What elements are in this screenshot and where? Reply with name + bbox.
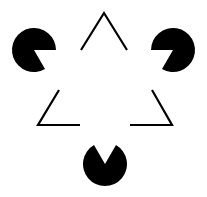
outline-corner-lower-right [130, 90, 172, 125]
kanizsa-figure: Kanizsa triangle illusion [0, 0, 207, 197]
pacman-right [151, 28, 195, 72]
illusion-canvas [0, 0, 207, 197]
outline-corner-top [81, 13, 127, 50]
pacman-bottom [83, 145, 127, 186]
pacman-left [12, 28, 56, 72]
outline-corner-lower-left [38, 90, 80, 125]
